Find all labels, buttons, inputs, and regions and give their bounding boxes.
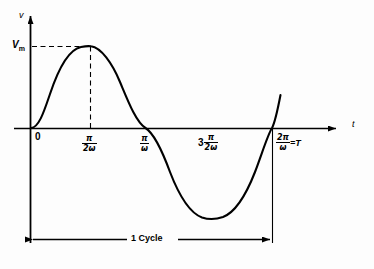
amplitude-symbol: V [12, 39, 19, 50]
tick-label-2pi-over-omega-equals-T: 2πω=T [276, 134, 301, 153]
fraction-denominator: ω [140, 144, 149, 153]
amplitude-label-vm: Vm [12, 40, 25, 52]
fraction-numerator: π [204, 134, 219, 143]
fraction-pi-omega: πω [140, 135, 149, 154]
waveform-plot [0, 0, 374, 269]
fraction-pi-2omega: π2ω [204, 134, 219, 153]
fraction-numerator: π [140, 135, 149, 144]
x-axis-label: t [352, 120, 355, 129]
fraction-2pi-omega: 2πω [276, 134, 290, 153]
fraction-numerator: π [82, 135, 97, 144]
y-axis-label: v [19, 11, 24, 20]
tick-label-3pi-over-2omega: 3π2ω [198, 134, 218, 153]
fraction-denominator: 2ω [82, 144, 97, 153]
amplitude-subscript: m [19, 45, 25, 52]
tick-label-pi-over-omega: πω [140, 135, 149, 154]
fraction-denominator: ω [276, 143, 290, 152]
sine-curve [31, 46, 281, 219]
period-equality-label: =T [290, 139, 301, 148]
tick-label-pi-over-2omega: π2ω [82, 135, 97, 154]
waveform-figure: v t Vm 0 π2ω πω 3π2ω 2πω=T 1 Cycle [0, 0, 374, 269]
tick-label-zero: 0 [35, 132, 41, 142]
fraction-pi-2omega: π2ω [82, 135, 97, 154]
fraction-numerator: 2π [276, 134, 290, 143]
fraction-denominator: 2ω [204, 143, 219, 152]
cycle-span-label: 1 Cycle [131, 234, 163, 243]
